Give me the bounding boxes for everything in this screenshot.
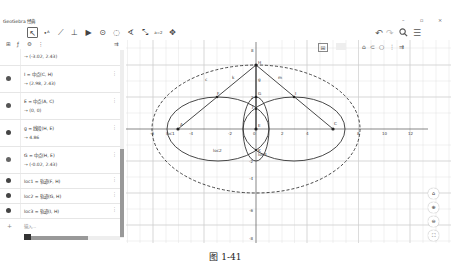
visibility-toggle[interactable]	[6, 130, 11, 135]
zoom-in-button[interactable]: ⊕	[428, 202, 439, 213]
item-more-icon[interactable]: ⋮	[112, 191, 117, 197]
svg-text:C: C	[334, 121, 337, 126]
point-F[interactable]	[216, 96, 219, 99]
algebra-input-row[interactable]: + 输入...	[0, 220, 120, 234]
axes-grid-toggle[interactable]: ⊞	[318, 43, 328, 52]
point-I[interactable]	[293, 96, 296, 99]
title-bar: GeoGebra 经典 – ▫ ×	[0, 16, 451, 26]
close-button[interactable]: ×	[438, 17, 442, 23]
svg-text:H: H	[258, 60, 261, 65]
point-K[interactable]	[255, 149, 257, 151]
item-more-icon[interactable]: ⋮	[112, 70, 117, 76]
item-value: → (2.98, 2.43)	[24, 81, 56, 86]
fullscreen-button[interactable]: ⛶	[428, 230, 439, 241]
grid-major	[126, 40, 451, 243]
svg-text:k: k	[232, 75, 235, 80]
search-icon	[399, 28, 408, 37]
algebra-view: ⊞ ƒ ⚙ ⋮ ⇉ → (-3.02, 2.43) I = 中点(C, H) →…	[0, 40, 127, 243]
collapse-panel-icon[interactable]: ⇉	[114, 41, 119, 47]
item-definition: E = 中点(A, C)	[24, 98, 54, 104]
slider-tool-button[interactable]: a=2	[153, 27, 164, 38]
home-icon[interactable]: ⌂	[362, 43, 366, 50]
circle-tool-button[interactable]: ⊙	[97, 27, 108, 38]
svg-text:m: m	[278, 75, 282, 80]
reflect-tool-button[interactable]: ⤡	[139, 27, 150, 38]
visibility-toggle[interactable]	[6, 103, 11, 108]
home-view-button[interactable]: ⌂	[428, 188, 439, 199]
item-definition: loc2 = 轨迹(G, H)	[24, 193, 61, 199]
point-style-icon[interactable]: ○	[379, 43, 384, 50]
visibility-toggle[interactable]	[6, 178, 11, 183]
item-more-icon[interactable]: ⋮	[112, 124, 117, 130]
polygon-tool-button[interactable]: ▶	[83, 27, 94, 38]
algebra-item-I[interactable]: I = 中点(C, H) → (2.98, 2.43) ⋮	[0, 66, 120, 93]
vertical-scrollbar-thumb[interactable]	[120, 149, 124, 237]
item-value: → (-0.02, 2.43)	[24, 162, 57, 167]
algebra-item-loc3[interactable]: loc3 = 轨迹(I, H) ⋮	[0, 204, 120, 219]
algebra-item-loc1[interactable]: loc1 = 轨迹(F, H) ⋮	[0, 174, 120, 189]
algebra-item-loc2[interactable]: loc2 = 轨迹(G, H) ⋮	[0, 189, 120, 204]
perpendicular-tool-button[interactable]: ⊥	[69, 27, 80, 38]
svg-text:0: 0	[253, 131, 256, 136]
visibility-toggle[interactable]	[6, 193, 11, 198]
visibility-toggle[interactable]	[6, 157, 11, 162]
zoom-out-button[interactable]: ⊖	[428, 216, 439, 227]
point-tool-button[interactable]: •ᴬ	[41, 27, 52, 38]
graphics-canvas[interactable]: -6 -4 -2 0 2 4 8 10 12 8 2 -2 -4 -6 -8	[126, 40, 451, 243]
svg-text:8: 8	[251, 48, 254, 53]
gear-icon[interactable]: ⚙	[27, 41, 32, 47]
item-value: → (0, 0)	[24, 108, 41, 113]
algebra-item-G[interactable]: G = 中点(H, E) → (-0.02, 2.43) ⋮	[0, 147, 120, 174]
svg-text:10: 10	[382, 131, 388, 136]
svg-text:J: J	[251, 104, 253, 109]
redo-button[interactable]: ↷	[386, 28, 394, 38]
move-view-tool-button[interactable]: ✥	[167, 27, 178, 38]
algebra-item-partial[interactable]: → (-3.02, 2.43)	[0, 49, 120, 66]
maximize-button[interactable]: ▫	[420, 17, 423, 23]
style-more-icon[interactable]: ⋮	[389, 43, 395, 50]
svg-text:I: I	[295, 91, 296, 96]
algebra-description-icon[interactable]: ƒ	[17, 41, 19, 47]
item-more-icon[interactable]: ⋮	[112, 97, 117, 103]
minimize-button[interactable]: –	[402, 17, 405, 23]
point-G[interactable]	[255, 96, 258, 99]
style-bar-toggle-icon[interactable]: ⇉	[399, 43, 404, 50]
sort-icon[interactable]: ⊞	[6, 41, 11, 47]
style-undo-icon[interactable]: ⊂	[370, 43, 375, 50]
svg-text:12: 12	[408, 131, 414, 136]
algebra-input-field[interactable]: 输入...	[24, 223, 36, 229]
svg-text:-4: -4	[249, 176, 253, 181]
item-value: → (-3.02, 2.43)	[24, 54, 57, 59]
more-icon[interactable]: ⋮	[38, 41, 44, 47]
angle-tool-button[interactable]: ∢	[125, 27, 136, 38]
svg-text:-2: -2	[228, 131, 232, 136]
line-tool-button[interactable]: ⟋	[55, 27, 66, 38]
move-tool-button[interactable]: ↖	[27, 27, 38, 38]
item-more-icon[interactable]: ⋮	[112, 206, 117, 212]
algebra-item-E[interactable]: E = 中点(A, C) → (0, 0) ⋮	[0, 93, 120, 120]
visibility-toggle[interactable]	[6, 208, 11, 213]
algebra-header: ⊞ ƒ ⚙ ⋮ ⇉	[0, 40, 126, 49]
circle-3pt-tool-button[interactable]: ◌	[111, 27, 122, 38]
item-definition: loc3 = 轨迹(I, H)	[24, 208, 59, 214]
keyboard-icon[interactable]	[24, 234, 31, 240]
point-J[interactable]	[255, 108, 257, 110]
undo-button[interactable]: ↶	[375, 28, 383, 38]
graphics-view[interactable]: -6 -4 -2 0 2 4 8 10 12 8 2 -2 -4 -6 -8	[126, 40, 451, 243]
point-C[interactable]	[331, 127, 334, 130]
figure-caption: 图 1-41	[0, 250, 451, 263]
search-button[interactable]	[399, 28, 408, 40]
horizontal-scrollbar-thumb[interactable]	[26, 236, 88, 240]
svg-text:A: A	[180, 122, 183, 127]
item-more-icon[interactable]: ⋮	[112, 176, 117, 182]
visibility-toggle[interactable]	[6, 76, 11, 81]
item-value: → 4.86	[24, 135, 39, 140]
svg-text:2: 2	[281, 131, 284, 136]
svg-text:-8: -8	[249, 236, 253, 241]
svg-text:-6: -6	[249, 208, 253, 213]
menu-button[interactable]: ☰	[413, 28, 421, 38]
point-A[interactable]	[176, 127, 179, 130]
svg-text:loc1: loc1	[166, 131, 175, 136]
item-more-icon[interactable]: ⋮	[112, 151, 117, 157]
algebra-item-g[interactable]: g = 线段(H, E) → 4.86 ⋮	[0, 120, 120, 147]
